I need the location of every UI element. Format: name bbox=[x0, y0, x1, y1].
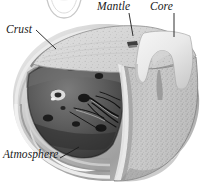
label-core: Core bbox=[150, 1, 173, 13]
label-atmosphere: Atmosphere bbox=[3, 149, 59, 161]
planet-cutaway-figure: Crust Mantle Core Atmosphere bbox=[0, 0, 214, 186]
partial-arc-above-icon bbox=[46, 0, 82, 18]
label-mantle: Mantle bbox=[97, 1, 130, 13]
label-crust: Crust bbox=[6, 24, 32, 36]
